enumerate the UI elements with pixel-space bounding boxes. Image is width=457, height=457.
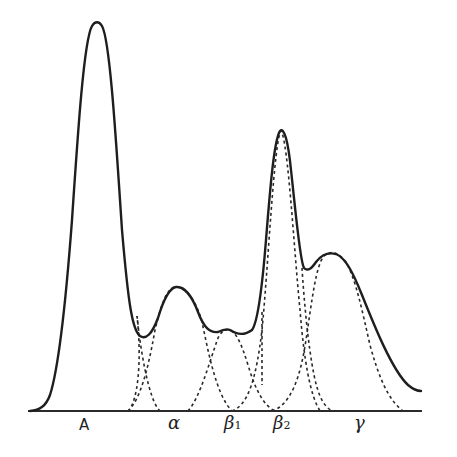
label-A: A <box>79 416 89 434</box>
component-alpha <box>128 287 232 411</box>
label-beta2-sub: 2 <box>283 419 290 432</box>
label-beta2: β2 <box>273 412 290 433</box>
label-beta1: β1 <box>224 412 241 433</box>
label-beta2-symbol: β <box>273 412 283 433</box>
component-beta2-right <box>302 268 333 411</box>
total-curve <box>30 22 421 411</box>
electrophoresis-chart <box>0 0 457 457</box>
label-alpha: α <box>168 412 180 433</box>
label-beta1-sub: 1 <box>234 419 241 432</box>
component-beta1 <box>188 330 275 411</box>
label-gamma: γ <box>354 412 365 433</box>
component-curves <box>128 131 403 411</box>
component-beta2 <box>232 131 320 411</box>
label-beta1-symbol: β <box>224 412 234 433</box>
component-A-tail <box>128 316 139 411</box>
component-gamma <box>272 253 403 411</box>
